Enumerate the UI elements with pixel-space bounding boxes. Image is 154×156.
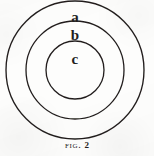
figure-caption-number: 2	[85, 140, 90, 150]
ring-label-b: b	[61, 28, 89, 43]
ring-label-a: a	[61, 10, 89, 25]
figure-caption: Fig.2	[0, 139, 154, 151]
figure-page: a b c Fig.2	[0, 0, 154, 156]
ring-label-c: c	[61, 52, 89, 67]
figure-caption-prefix: Fig.	[65, 139, 82, 150]
circle-inner-c	[46, 41, 104, 99]
